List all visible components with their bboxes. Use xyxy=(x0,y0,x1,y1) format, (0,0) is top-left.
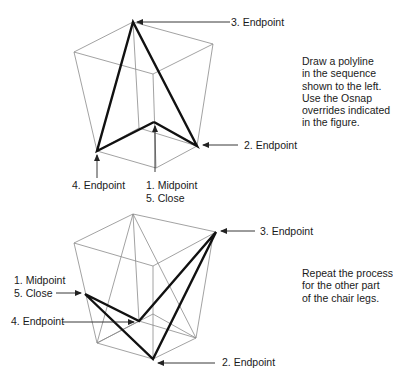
top-polyline xyxy=(97,22,197,151)
top-label-step3: 3. Endpoint xyxy=(231,16,284,28)
bottom-label-step2: 2. Endpoint xyxy=(222,356,275,368)
bottom-box-wireframe xyxy=(74,214,216,359)
bottom-label-step1: 1. Midpoint xyxy=(14,274,65,286)
bottom-label-step5: 5. Close xyxy=(14,287,53,299)
top-instructions: Draw a polyline in the sequence shown to… xyxy=(302,55,390,129)
bottom-figure: 3. Endpoint 1. Midpoint 5. Close 4. Endp… xyxy=(11,214,313,368)
bottom-instruction-line: of the chair legs. xyxy=(302,292,393,304)
top-instruction-line: Use the Osnap xyxy=(302,92,390,104)
bottom-label-step4: 4. Endpoint xyxy=(11,315,64,327)
top-instruction-line: overrides indicated xyxy=(302,104,390,116)
bottom-instruction-line: Repeat the process xyxy=(302,267,393,279)
bottom-polyline xyxy=(85,232,216,359)
top-instruction-line: shown to the left. xyxy=(302,80,390,92)
top-instruction-line: in the sequence xyxy=(302,67,390,79)
top-label-step2: 2. Endpoint xyxy=(244,139,297,151)
top-label-step1: 1. Midpoint xyxy=(146,179,197,191)
top-figure: 3. Endpoint 2. Endpoint 4. Endpoint 1. M… xyxy=(72,16,297,204)
top-label-step5: 5. Close xyxy=(146,192,185,204)
top-instruction-line: in the figure. xyxy=(302,116,390,128)
top-label-step4: 4. Endpoint xyxy=(72,179,125,191)
bottom-instruction-line: for the other part xyxy=(302,279,393,291)
bottom-label-step3: 3. Endpoint xyxy=(260,225,313,237)
top-instruction-line: Draw a polyline xyxy=(302,55,390,67)
bottom-instructions: Repeat the process for the other part of… xyxy=(302,267,393,304)
